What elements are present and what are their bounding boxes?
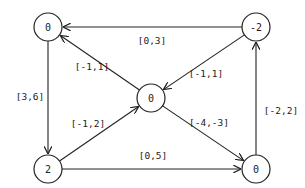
node-label: -2 bbox=[250, 22, 262, 33]
edge-label: [0,5] bbox=[139, 150, 168, 161]
edge-label: [-1,1] bbox=[189, 68, 223, 79]
edge-label: [-1,2] bbox=[71, 118, 105, 129]
edge-label: [-1,1] bbox=[75, 61, 109, 72]
node-label: 2 bbox=[45, 164, 51, 175]
edge-arrow bbox=[163, 106, 244, 161]
node-tr: -2 bbox=[242, 13, 270, 41]
edge-tr-to-tl: [0,3] bbox=[63, 27, 242, 46]
edge-label: [-4,-3] bbox=[189, 117, 229, 128]
edge-tr-to-c: [-1,1] bbox=[163, 35, 244, 90]
graph-diagram: [0,3][-1,1][-1,1][3,6][-1,2][-4,-3][0,5]… bbox=[0, 0, 305, 188]
node-label: 0 bbox=[148, 93, 154, 104]
node-tl: 0 bbox=[34, 13, 62, 41]
edge-tl-to-bl: [3,6] bbox=[16, 41, 48, 154]
node-bl: 2 bbox=[34, 155, 62, 183]
edge-c-to-br: [-4,-3] bbox=[163, 106, 244, 161]
edge-label: [-2,2] bbox=[264, 105, 298, 116]
edge-br-to-tr: [-2,2] bbox=[256, 42, 298, 155]
edge-bl-to-c: [-1,2] bbox=[60, 107, 139, 162]
node-br: 0 bbox=[242, 155, 270, 183]
edge-arrow bbox=[163, 35, 244, 90]
edge-c-to-tl: [-1,1] bbox=[60, 36, 139, 91]
node-c: 0 bbox=[137, 84, 165, 112]
edge-arrow bbox=[60, 107, 139, 162]
edge-label: [0,3] bbox=[138, 35, 167, 46]
node-label: 0 bbox=[253, 164, 259, 175]
edge-bl-to-br: [0,5] bbox=[62, 150, 241, 169]
edge-label: [3,6] bbox=[16, 91, 45, 102]
node-label: 0 bbox=[45, 22, 51, 33]
